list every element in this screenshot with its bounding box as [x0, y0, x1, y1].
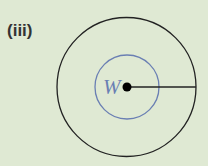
concentric-circles-diagram: W [0, 0, 208, 166]
center-dot [123, 83, 132, 92]
center-label-w: W [103, 75, 123, 99]
